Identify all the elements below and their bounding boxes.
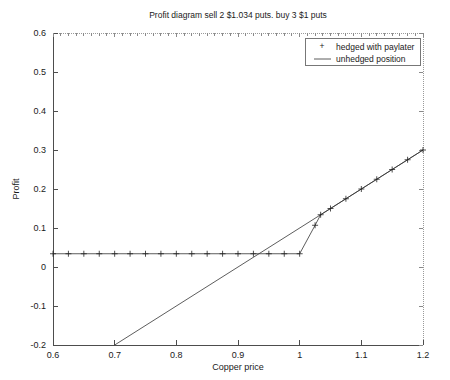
legend-item-unhedged-label: unhedged position [336, 54, 406, 64]
chart-title-group: Profit diagram sell 2 $1.034 puts. buy 3… [149, 10, 327, 20]
y-axis-tick-labels: -0.2-0.100.10.20.30.40.50.6 [30, 28, 46, 350]
chart-canvas: Profit diagram sell 2 $1.034 puts. buy 3… [0, 0, 450, 380]
y-axis-title: Profit [11, 178, 21, 200]
x-axis-ticks [53, 33, 423, 345]
y-tick-label: 0.2 [33, 184, 46, 194]
series-hedged-markers [50, 147, 426, 257]
legend-marker-plus-icon: + [320, 41, 325, 51]
x-tick-label: 0.6 [47, 350, 60, 360]
y-tick-label: 0.6 [33, 28, 46, 38]
hedged-line [53, 150, 423, 254]
x-tick-label: 1.2 [417, 350, 430, 360]
y-axis-ticks [53, 33, 423, 345]
x-tick-label: 1.1 [355, 350, 368, 360]
y-tick-label: 0 [41, 262, 46, 272]
y-tick-label: 0.5 [33, 67, 46, 77]
plot-frame [53, 33, 423, 345]
y-tick-label: 0.4 [33, 106, 46, 116]
y-tick-label: 0.3 [33, 145, 46, 155]
y-tick-label: -0.2 [30, 340, 46, 350]
x-tick-label: 1 [297, 350, 302, 360]
chart-legend[interactable]: + hedged with paylater unhedged position [305, 38, 420, 65]
x-tick-label: 0.9 [232, 350, 245, 360]
chart-title: Profit diagram sell 2 $1.034 puts. buy 3… [149, 10, 327, 20]
y-tick-label: 0.1 [33, 223, 46, 233]
series-hedged-with-paylater [53, 150, 423, 254]
y-tick-label: -0.1 [30, 301, 46, 311]
x-tick-label: 0.8 [170, 350, 183, 360]
legend-item-hedged-label: hedged with paylater [336, 42, 415, 52]
x-axis-title: Copper price [212, 362, 264, 372]
x-tick-label: 0.7 [108, 350, 121, 360]
x-axis-tick-labels: 0.60.70.80.911.11.2 [47, 350, 430, 360]
profit-diagram-figure: Profit diagram sell 2 $1.034 puts. buy 3… [0, 0, 450, 380]
